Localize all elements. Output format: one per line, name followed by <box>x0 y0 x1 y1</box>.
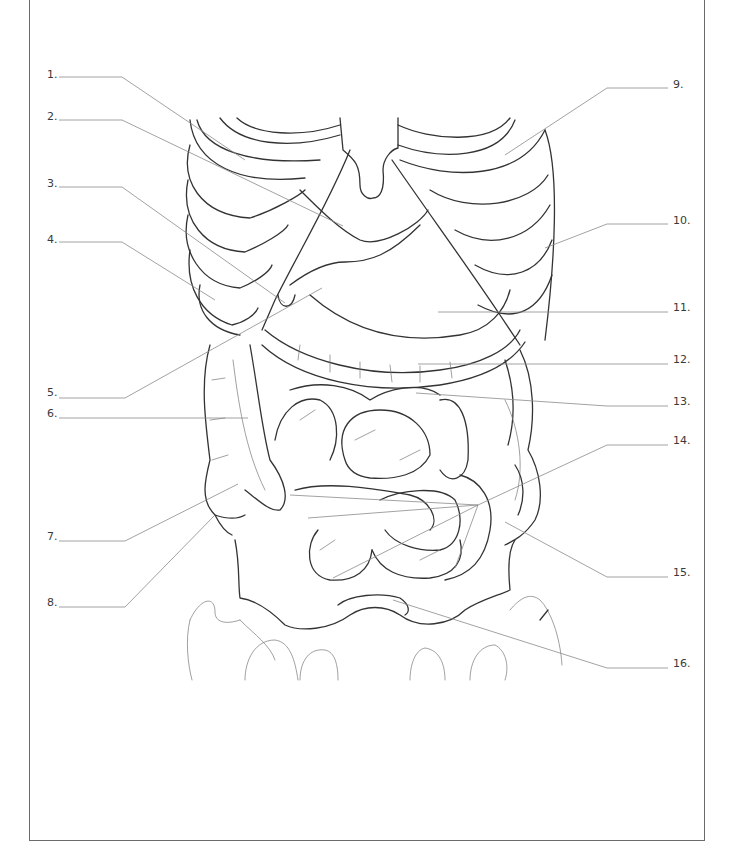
leader-line-2 <box>59 120 343 226</box>
rib-cage <box>186 118 554 345</box>
leader-line-3 <box>59 187 285 303</box>
leader-lines <box>59 77 668 668</box>
leader-fan-14 <box>333 505 478 578</box>
label-11: 11. <box>673 302 691 314</box>
label-2: 2. <box>47 111 58 123</box>
leader-line-7 <box>59 484 238 541</box>
leader-line-15 <box>505 522 668 577</box>
label-3: 3. <box>47 178 58 190</box>
label-14: 14. <box>673 435 691 447</box>
transverse-colon <box>262 330 525 388</box>
leader-line-14 <box>478 445 668 505</box>
label-10: 10. <box>673 215 691 227</box>
label-12: 12. <box>673 354 691 366</box>
leader-line-9 <box>505 88 668 155</box>
leader-fan-14 <box>308 505 478 518</box>
ascending-colon <box>204 345 285 535</box>
anatomy-illustration <box>0 0 740 860</box>
descending-colon <box>505 350 540 545</box>
leader-line-16 <box>393 600 668 668</box>
label-15: 15. <box>673 567 691 579</box>
small-intestine <box>275 385 491 580</box>
label-16: 16. <box>673 658 691 670</box>
upper-organs <box>278 190 510 338</box>
label-5: 5. <box>47 387 58 399</box>
label-13: 13. <box>673 396 691 408</box>
label-8: 8. <box>47 597 58 609</box>
leader-line-8 <box>59 515 215 607</box>
leader-line-1 <box>59 77 245 160</box>
label-7: 7. <box>47 531 58 543</box>
label-6: 6. <box>47 408 58 420</box>
pelvis <box>187 540 562 680</box>
label-1: 1. <box>47 69 58 81</box>
leader-line-13 <box>416 393 668 406</box>
label-9: 9. <box>673 79 684 91</box>
label-4: 4. <box>47 234 58 246</box>
leader-line-4 <box>59 242 215 300</box>
leader-line-10 <box>545 224 668 248</box>
